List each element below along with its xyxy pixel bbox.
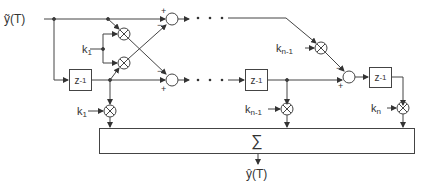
delay-exponent: -1 xyxy=(379,73,386,82)
delay-exponent: -1 xyxy=(255,76,262,85)
delay-block-2: z-1 xyxy=(245,69,268,91)
summation-block: ∑ xyxy=(99,128,415,154)
output-label: ŷ(T) xyxy=(246,168,267,180)
coef-k1-lattice: k1 xyxy=(82,44,92,57)
adder2-minus: − xyxy=(336,64,341,73)
adder1-top-plus: + xyxy=(161,7,166,16)
diagram-wires xyxy=(0,0,435,191)
coef-kn1-lattice: kn-1 xyxy=(276,43,293,56)
delay-block-1: z-1 xyxy=(69,69,92,91)
coef-k1-tap: k1 xyxy=(77,106,87,119)
adder1-bottom-minus: − xyxy=(157,67,162,76)
adder2-plus: + xyxy=(338,82,343,91)
delay-block-n: z-1 xyxy=(369,67,392,88)
coef-kn1-tap: kn-1 xyxy=(245,104,262,117)
input-label: ỹ(T) xyxy=(4,13,25,25)
coef-kn-tap: kn xyxy=(371,103,381,116)
sigma-symbol: ∑ xyxy=(251,132,262,150)
adder1-bottom-plus: + xyxy=(161,85,166,94)
adder1-top-minus: − xyxy=(157,21,162,30)
delay-exponent: -1 xyxy=(79,76,86,85)
